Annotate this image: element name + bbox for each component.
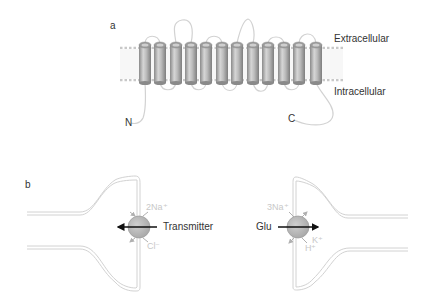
glu-label: Glu	[256, 222, 272, 232]
helix-12	[310, 42, 322, 85]
left-ion-bottom-label: Cl⁻	[147, 242, 161, 251]
helix-7	[231, 42, 243, 85]
helix-8	[247, 42, 259, 85]
right-ion-top-label: 3Na⁺	[267, 203, 289, 212]
panel-b-label: b	[25, 180, 31, 190]
helix-5	[200, 42, 212, 85]
diagram-canvas	[0, 0, 424, 303]
transmitter-label: Transmitter	[163, 222, 213, 232]
helix-9	[262, 42, 274, 85]
panel-a-label: a	[110, 21, 116, 31]
helix-10	[278, 42, 290, 85]
helix-6	[216, 42, 228, 85]
intracellular-label: Intracellular	[334, 87, 386, 97]
c-terminus-label: C	[288, 114, 295, 124]
helix-2	[154, 42, 166, 85]
left-transporter	[118, 212, 157, 242]
helix-1	[139, 42, 151, 85]
helix-11	[293, 42, 305, 85]
left-terminal-outline	[27, 176, 140, 291]
helix-4	[185, 42, 197, 85]
ion-arrow-icon	[130, 212, 135, 216]
extracellular-label: Extracellular	[334, 34, 389, 44]
right-ion-h-label: H⁺	[305, 244, 317, 253]
right-terminal-outline	[293, 177, 408, 290]
n-terminus-label: N	[125, 118, 132, 128]
left-ion-top-label: 2Na⁺	[146, 203, 168, 212]
helix-3	[170, 42, 182, 85]
